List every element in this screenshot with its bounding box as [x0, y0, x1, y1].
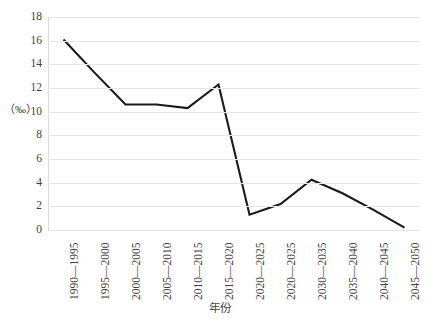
x-axis-tick-label: 2020—2025	[286, 234, 298, 300]
x-axis-tick-label: 2010—2015	[193, 234, 205, 300]
y-axis-tick-label: 10	[31, 106, 43, 118]
y-axis-tick-label: 14	[31, 59, 43, 71]
y-axis-tick-label: 12	[31, 82, 43, 94]
gridline	[48, 41, 420, 42]
x-axis-tick-label: 2040—2045	[379, 234, 391, 300]
plot-area	[48, 17, 420, 230]
line-chart: （‰） 181614121086420 1990—19951995—200020…	[0, 0, 439, 327]
x-axis-tick-label: 2000—2005	[131, 234, 143, 300]
y-axis-tick-label: 18	[31, 11, 43, 23]
gridline	[48, 112, 420, 113]
gridline	[48, 183, 420, 184]
gridline	[48, 17, 420, 18]
gridline	[48, 88, 420, 89]
x-axis-tick-label: 2020—2025	[255, 234, 267, 300]
gridline	[48, 230, 420, 231]
y-axis-tick-label: 6	[36, 153, 42, 165]
x-axis-tick-label: 1995—2000	[100, 234, 112, 300]
x-axis-tick-label: 2030—2035	[317, 234, 329, 300]
x-axis-title: 年份	[0, 303, 439, 315]
x-axis-tick-label: 2005—2010	[162, 234, 174, 300]
y-axis-tick-label: 16	[31, 35, 43, 47]
data-series-line	[48, 17, 420, 230]
x-axis-tick-label: 2015—2020	[224, 234, 236, 300]
y-axis-tick-labels: 181614121086420	[0, 17, 42, 230]
x-axis-tick-label: 1990—1995	[69, 234, 81, 300]
gridline	[48, 206, 420, 207]
y-axis-tick-label: 0	[36, 224, 42, 236]
x-axis-tick-label: 2045—2050	[410, 234, 422, 300]
gridline	[48, 159, 420, 160]
y-axis-tick-label: 4	[36, 177, 42, 189]
y-axis-tick-label: 2	[36, 201, 42, 213]
y-axis-tick-label: 8	[36, 130, 42, 142]
gridline	[48, 64, 420, 65]
x-axis-tick-label: 2035—2040	[348, 234, 360, 300]
x-axis-tick-labels: 1990—19951995—20002000—20052005—20102010…	[48, 234, 420, 300]
gridline	[48, 135, 420, 136]
